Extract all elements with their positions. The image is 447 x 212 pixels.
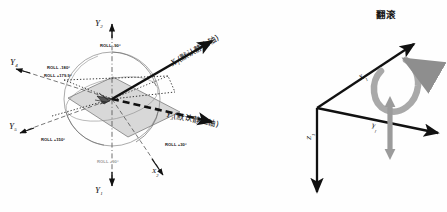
roll-reference-svg <box>0 0 282 212</box>
axis-label-y5: Y5 <box>9 122 17 131</box>
roll-label-minus-90: ROLL -90° <box>100 44 121 48</box>
axis-triad <box>317 44 438 192</box>
roll-motion-svg <box>282 0 447 212</box>
axis-label-y4: Y4 <box>10 58 18 67</box>
axis-y5-head <box>20 128 34 133</box>
roll-reference-diagram: Y2 Y1 Y4 Y5 X2 X1(默认静止轴) Y3(默认静止轴) ROLL … <box>0 0 282 212</box>
roll-curved-arrow <box>374 60 418 112</box>
axis-y1-right <box>317 108 438 133</box>
reference-plane <box>68 77 180 137</box>
roll-label-plus-30: ROLL +30° <box>165 143 187 147</box>
axis-label-y1: Y1 <box>95 186 103 195</box>
figure-root: Y2 Y1 Y4 Y5 X2 X1(默认静止轴) Y3(默认静止轴) ROLL … <box>0 0 447 212</box>
axis-label-y2: Y2 <box>95 19 103 28</box>
roll-motion-diagram: 翻滚 X1 Y1 Z1 <box>282 0 447 212</box>
axis-y4-head <box>16 69 30 73</box>
roll-double-arrow <box>385 96 396 160</box>
axis-label-x2: X2 <box>152 168 159 177</box>
axis-label-z1-right: Z1 <box>306 134 315 140</box>
roll-label-plus-90: ROLL +90° <box>97 160 119 164</box>
roll-label-minus-180: ROLL -180° <box>47 66 70 70</box>
roll-title: 翻滚 <box>376 10 396 20</box>
roll-label-plus-179-9: ROLL +179.9° <box>44 74 72 78</box>
roll-label-plus-150: ROLL +150° <box>41 138 65 142</box>
arc-minus180 <box>70 56 98 82</box>
